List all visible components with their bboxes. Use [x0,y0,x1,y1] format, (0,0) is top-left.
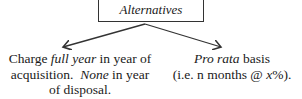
left-line-1: Charge full year in year of [0,51,160,67]
pro-rata-alternative: Pro rata basis (i.e. n months @ x%). [172,51,292,82]
right-line-1: Pro rata basis [172,51,292,67]
full-year-alternative: Charge full year in year of acquisition.… [0,51,160,98]
left-line-3: of disposal. [0,82,160,98]
left-line-2: acquisition. None in year [0,67,160,83]
right-arrow [145,24,221,47]
left-arrow [63,24,145,47]
right-line-2: (i.e. n months @ x%). [172,67,292,83]
